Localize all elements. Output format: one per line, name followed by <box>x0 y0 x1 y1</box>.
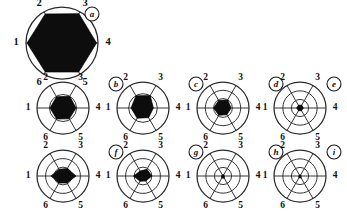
radar-data-polygon-h <box>221 175 224 179</box>
axis-label-d-3: 3 <box>238 72 243 82</box>
axis-label-b-2: 2 <box>43 72 48 82</box>
axis-label-h-1: 1 <box>186 170 191 180</box>
panel-badge-label-e: e <box>332 79 336 89</box>
axis-label-c-1: 1 <box>106 102 111 112</box>
axis-label-e-2: 2 <box>280 72 285 82</box>
axis-label-a-2: 2 <box>36 0 41 8</box>
panel-badge-e: e <box>325 75 343 93</box>
radar-data-polygon-c <box>131 96 153 119</box>
axis-label-d-1: 1 <box>186 102 191 112</box>
axis-label-f-3: 3 <box>78 140 83 150</box>
panel-badge-a: a <box>83 5 101 23</box>
axis-label-g-5: 5 <box>158 200 163 210</box>
radar-chart-figure: 123456a123456b123456c123456d123456e12345… <box>0 0 347 217</box>
axis-label-b-3: 3 <box>78 72 83 82</box>
axis-label-g-1: 1 <box>106 170 111 180</box>
axis-label-b-1: 1 <box>26 102 31 112</box>
axis-label-c-3: 3 <box>158 72 163 82</box>
axis-label-h-3: 3 <box>238 140 243 150</box>
radar-data-polygon-b <box>50 96 76 119</box>
axis-label-a-4: 4 <box>105 36 111 47</box>
axis-label-g-2: 2 <box>123 140 128 150</box>
panel-badge-label-a: a <box>90 9 95 19</box>
axis-label-g-6: 6 <box>123 200 128 210</box>
axis-label-g-3: 3 <box>158 140 163 150</box>
axis-label-a-1: 1 <box>13 36 18 47</box>
radar-panel-i: 123456 <box>252 128 347 217</box>
axis-label-c-2: 2 <box>123 72 128 82</box>
axis-label-e-3: 3 <box>315 72 320 82</box>
axis-label-h-5: 5 <box>238 200 243 210</box>
axis-label-e-1: 1 <box>263 102 268 112</box>
axis-label-f-5: 5 <box>78 200 83 210</box>
panel-badge-i: i <box>325 143 343 161</box>
axis-label-e-4: 4 <box>333 102 338 112</box>
axis-label-f-2: 2 <box>43 140 48 150</box>
axis-label-i-4: 4 <box>333 170 338 180</box>
axis-label-h-6: 6 <box>203 200 208 210</box>
axis-label-i-2: 2 <box>280 140 285 150</box>
axis-label-d-2: 2 <box>203 72 208 82</box>
radar-data-polygon-i <box>299 175 301 178</box>
axis-label-i-3: 3 <box>315 140 320 150</box>
axis-label-f-1: 1 <box>26 170 31 180</box>
axis-label-i-6: 6 <box>280 200 285 210</box>
axis-label-i-5: 5 <box>315 200 320 210</box>
radar-data-polygon-f <box>51 169 76 183</box>
axis-label-h-2: 2 <box>203 140 208 150</box>
axis-label-f-6: 6 <box>43 200 48 210</box>
radar-data-polygon-g <box>134 169 152 181</box>
radar-data-polygon-e <box>297 105 304 111</box>
axis-label-i-1: 1 <box>263 170 268 180</box>
